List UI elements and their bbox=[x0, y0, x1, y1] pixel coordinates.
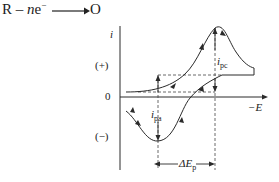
positive-current-label: (+) bbox=[95, 59, 109, 71]
ipc-arrow-icon bbox=[213, 28, 218, 34]
ipa-arrow-icon bbox=[156, 135, 161, 141]
delta-ep-label: ΔEp bbox=[179, 157, 196, 172]
negative-current-label: (−) bbox=[95, 130, 109, 142]
ipa-up-arrow-icon bbox=[156, 75, 161, 81]
direction-arrow-icon bbox=[199, 43, 204, 50]
y-axis-label: i bbox=[110, 28, 113, 40]
ipc-down-arrow-icon bbox=[213, 86, 218, 92]
delta-ep-right-arrow-icon bbox=[209, 162, 215, 167]
x-axis-label: −E bbox=[248, 101, 262, 113]
zero-label: 0 bbox=[105, 90, 111, 102]
x-axis-arrow-icon bbox=[262, 95, 268, 100]
ipa-label: ipa bbox=[151, 108, 162, 123]
cyclic-voltammogram bbox=[0, 0, 279, 182]
anodic-sweep-curve bbox=[126, 27, 254, 92]
delta-ep-left-arrow-icon bbox=[154, 162, 160, 167]
ipc-label: ipc bbox=[217, 55, 228, 70]
direction-arrow-icon bbox=[130, 107, 135, 113]
